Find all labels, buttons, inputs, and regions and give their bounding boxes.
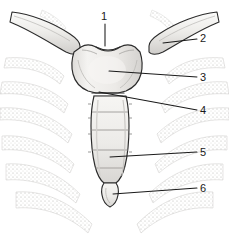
sternum-illustration <box>0 0 229 243</box>
label-number-4: 4 <box>200 105 206 116</box>
label-number-3: 3 <box>200 72 206 83</box>
label-number-6: 6 <box>200 183 206 194</box>
manubrium <box>72 45 142 93</box>
label-number-5: 5 <box>200 147 206 158</box>
sternal-body <box>88 96 132 183</box>
label-number-1: 1 <box>101 11 107 22</box>
label-number-2: 2 <box>200 33 206 44</box>
anatomy-figure: 1 2 3 4 5 6 <box>0 0 229 243</box>
xiphoid-process <box>102 183 119 207</box>
